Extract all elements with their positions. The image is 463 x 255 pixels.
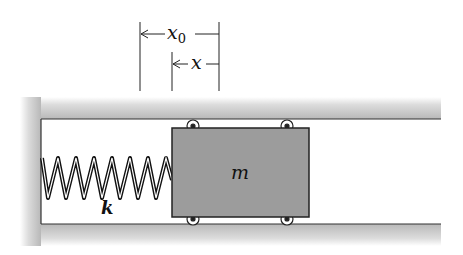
diagram-canvas	[0, 0, 463, 255]
label-x0: x0	[167, 23, 186, 45]
label-x: x	[191, 53, 202, 72]
label-m: m	[231, 163, 249, 182]
label-k: k	[101, 199, 113, 217]
